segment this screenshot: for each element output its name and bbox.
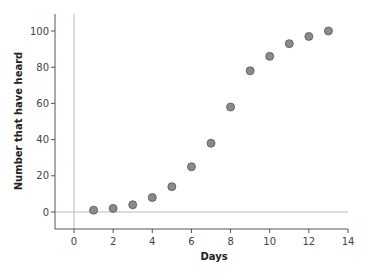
data-point [305,32,313,40]
x-tick-label: 14 [342,236,355,247]
x-tick-label: 0 [71,236,77,247]
y-tick-label: 80 [36,62,49,73]
x-tick-label: 10 [263,236,276,247]
data-point [246,67,254,75]
x-tick-label: 6 [188,236,194,247]
data-point [90,206,98,214]
y-tick-label: 20 [36,170,49,181]
data-point [129,201,137,209]
data-point [324,27,332,35]
data-point [285,40,293,48]
data-point [109,204,117,212]
data-point [227,103,235,111]
y-tick-label: 100 [30,26,49,37]
x-tick-label: 8 [227,236,233,247]
data-points [90,27,333,214]
y-tick-label: 60 [36,98,49,109]
data-point [266,52,274,60]
reference-lines [55,14,348,229]
x-tick-label: 12 [302,236,315,247]
y-tick-label: 0 [43,207,49,218]
scatter-chart: 02040608010002468101214 Days Number that… [0,0,367,275]
y-axis-title: Number that have heard [13,52,24,191]
data-point [187,163,195,171]
x-axis-title: Days [200,251,227,262]
x-tick-label: 2 [110,236,116,247]
y-tick-label: 40 [36,134,49,145]
x-tick-label: 4 [149,236,155,247]
data-point [207,139,215,147]
data-point [148,194,156,202]
data-point [168,183,176,191]
